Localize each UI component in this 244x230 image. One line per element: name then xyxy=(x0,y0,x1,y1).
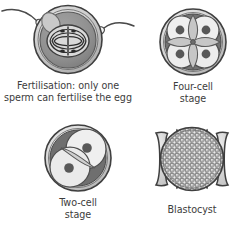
panel-four-cell: Four-cell stage xyxy=(144,6,242,104)
nucleus xyxy=(64,163,74,173)
caption-line: sperm can fertilise the egg xyxy=(4,92,132,104)
panel-caption: Four-cell stage xyxy=(173,81,213,104)
panel-caption: Fertilisation: only one sperm can fertil… xyxy=(4,80,132,103)
nucleus xyxy=(176,50,185,59)
panel-caption: Blastocyst xyxy=(168,204,217,216)
caption-line: stage xyxy=(59,209,97,221)
panel-caption: Two-cell stage xyxy=(59,197,97,220)
panel-fertilisation: Fertilisation: only one sperm can fertil… xyxy=(0,2,136,103)
sperm-tail-icon xyxy=(104,23,134,28)
nucleus xyxy=(202,50,211,59)
sperm-tail-icon xyxy=(2,10,37,21)
caption-line: Fertilisation: only one xyxy=(4,80,132,92)
caption-line: Blastocyst xyxy=(168,204,217,216)
caption-line: Four-cell xyxy=(173,81,213,93)
fertilised-egg-with-sperm-diagram xyxy=(0,2,136,78)
nucleus xyxy=(176,26,185,35)
two-cell-embryo-diagram xyxy=(39,122,117,194)
blastocyst-diagram xyxy=(148,116,236,202)
caption-line: Two-cell xyxy=(59,197,97,209)
cell-junction-center xyxy=(191,40,196,45)
panel-blastocyst: Blastocyst xyxy=(140,116,244,216)
meiotic-spindle xyxy=(47,25,89,57)
inner-cell-mass xyxy=(161,128,224,191)
nucleus xyxy=(202,26,211,35)
nucleus xyxy=(82,143,92,153)
caption-line: stage xyxy=(173,93,213,105)
four-cell-embryo-diagram xyxy=(156,6,230,78)
embryo-development-figure: Fertilisation: only one sperm can fertil… xyxy=(0,0,244,230)
panel-two-cell: Two-cell stage xyxy=(22,122,134,220)
